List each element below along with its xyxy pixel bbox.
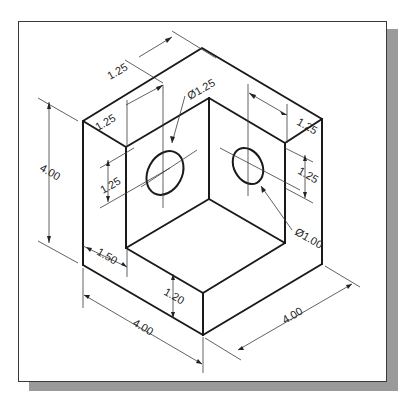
holes xyxy=(139,84,300,208)
dim-wall-thickness: 1.50 xyxy=(95,245,120,266)
isometric-drawing: 1.25 1.25 Ø1.25 1.25 1.25 1.25 Ø1.00 4.0… xyxy=(0,0,414,401)
dim-right-hole-height: 1.25 xyxy=(296,164,321,185)
left-hole xyxy=(139,145,191,202)
dim-overall-width-right: 4.00 xyxy=(280,305,305,326)
dim-top-back-depth: 1.25 xyxy=(105,61,130,82)
dim-left-hole-offset: 1.25 xyxy=(93,112,118,133)
dim-overall-height: 4.00 xyxy=(38,161,63,182)
dim-right-hole-diameter: Ø1.00 xyxy=(293,225,325,250)
dim-left-hole-diameter: Ø1.25 xyxy=(185,76,217,101)
dim-base-thickness: 1.20 xyxy=(162,285,187,306)
dim-left-hole-height: 1.25 xyxy=(98,175,123,196)
dimension-labels: 1.25 1.25 Ø1.25 1.25 1.25 1.25 Ø1.00 4.0… xyxy=(38,61,325,338)
